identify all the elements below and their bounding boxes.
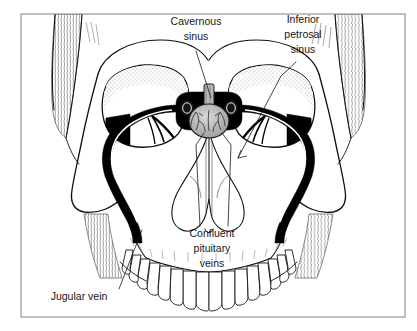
label-confluent-pituitary-veins-line2: pituitary — [194, 242, 232, 254]
label-cavernous-sinus-line1: Cavernous — [171, 15, 222, 27]
label-confluent-pituitary-veins-line3: veins — [200, 257, 225, 269]
label-jugular-vein: Jugular vein — [51, 290, 108, 302]
label-jugular-vein-line1: Jugular vein — [51, 290, 108, 302]
label-inferior-petrosal-sinus-line3: sinus — [291, 43, 316, 55]
pituitary-gland — [189, 104, 229, 138]
label-inferior-petrosal-sinus-line2: petrosal — [284, 28, 321, 40]
label-inferior-petrosal-sinus-line1: Inferior — [287, 13, 320, 25]
label-confluent-pituitary-veins-line1: Confluent — [190, 227, 235, 239]
figure-container: Cavernous sinus Inferior petrosal sinus … — [0, 0, 417, 331]
label-cavernous-sinus-line2: sinus — [184, 30, 209, 42]
pituitary-stalk — [204, 84, 214, 106]
skull-venous-anatomy-illustration: Cavernous sinus Inferior petrosal sinus … — [0, 0, 417, 331]
